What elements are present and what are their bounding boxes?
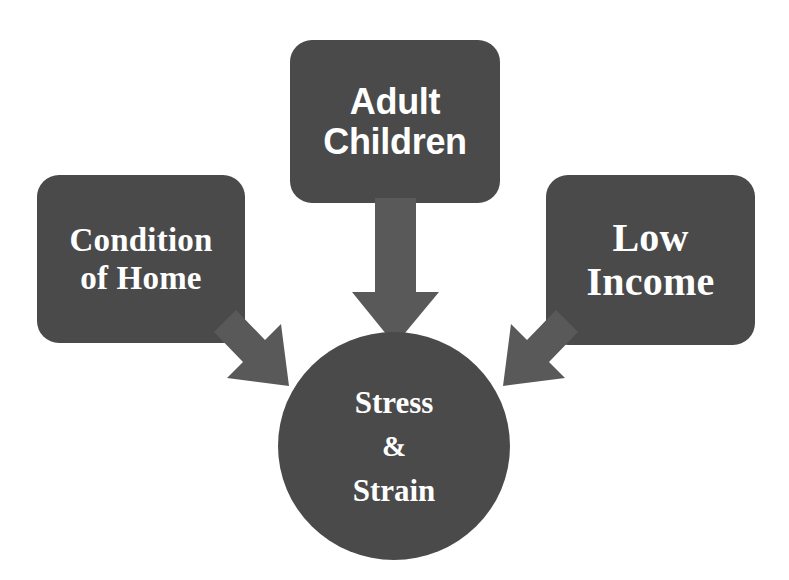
node-low-income[interactable]: Low Income <box>546 175 755 345</box>
node-adult-children[interactable]: Adult Children <box>290 40 500 203</box>
arrow-adult-children-to-stress <box>352 198 439 345</box>
node-condition-of-home[interactable]: Condition of Home <box>37 175 245 343</box>
node-label-stress-strain-line3: Strain <box>353 475 436 506</box>
node-label-low-income-line2: Income <box>587 261 715 303</box>
node-label-stress-strain-ampersand: & <box>382 432 406 461</box>
node-label-low-income-line1: Low <box>612 217 688 259</box>
node-label-adult-children-line2: Children <box>323 123 467 160</box>
node-stress-strain[interactable]: Stress & Strain <box>278 332 510 560</box>
node-label-condition-of-home-line1: Condition <box>69 223 212 257</box>
node-label-condition-of-home-line2: of Home <box>80 261 201 295</box>
node-label-adult-children-line1: Adult <box>350 83 440 120</box>
node-label-stress-strain-line1: Stress <box>355 387 434 418</box>
diagram-canvas: Condition of Home Adult Children Low Inc… <box>0 0 789 580</box>
